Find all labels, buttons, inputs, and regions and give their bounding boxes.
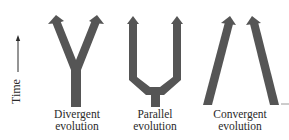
convergent-label: Convergent evolution (200, 108, 280, 132)
convergent-evolution-shape (203, 16, 289, 105)
divergent-evolution-shape (48, 15, 104, 107)
convergent-label-line2: evolution (200, 120, 280, 132)
divergent-left-arrowhead-icon (48, 15, 64, 24)
parallel-label-line2: evolution (115, 120, 195, 132)
convergent-label-line1: Convergent (200, 108, 280, 120)
time-axis-label: Time (9, 79, 24, 104)
convergent-left-arrowhead-icon (221, 16, 236, 25)
divergent-label-line2: evolution (37, 120, 117, 132)
divergent-label: Divergent evolution (37, 108, 117, 132)
parallel-label-line1: Parallel (115, 108, 195, 120)
parallel-right-arrowhead-icon (171, 16, 183, 24)
parallel-label: Parallel evolution (115, 108, 195, 132)
parallel-evolution-shape (127, 16, 183, 107)
convergent-right-arrowhead-icon (246, 16, 261, 25)
divergent-label-line1: Divergent (37, 108, 117, 120)
time-axis-arrow-icon (16, 35, 20, 72)
parallel-left-arrowhead-icon (127, 16, 139, 24)
